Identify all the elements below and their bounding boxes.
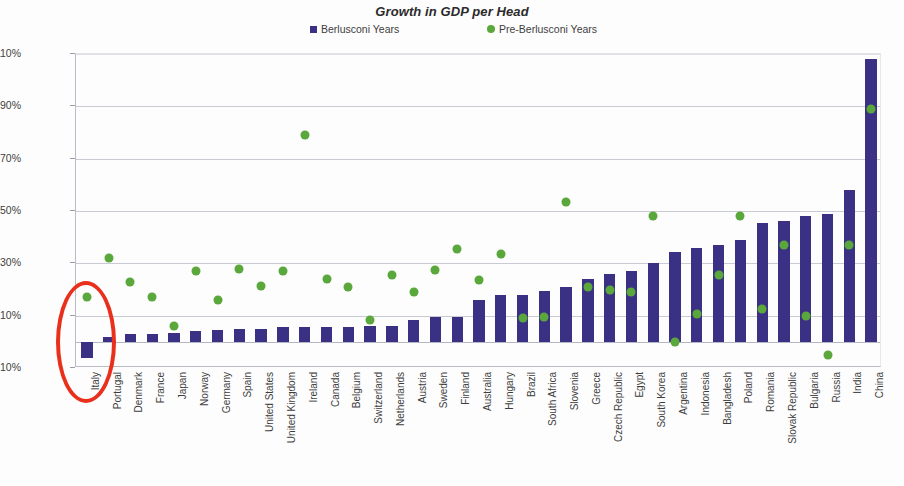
x-axis-tick-label: South Africa <box>547 372 558 426</box>
x-axis-tick-label: Brazil <box>526 372 537 397</box>
x-axis-tick-label: Poland <box>743 372 754 403</box>
bar-germany <box>212 330 223 342</box>
x-axis-tick-label: United Kingdom <box>286 372 297 443</box>
dot-egypt <box>627 288 636 297</box>
y-axis-tick-label: 50% <box>0 204 21 216</box>
y-axis-tick-label: 10% <box>0 309 21 321</box>
bar-indonesia <box>691 248 702 342</box>
bar-bangladesh <box>713 245 724 342</box>
dot-bangladesh <box>714 271 723 280</box>
dot-brazil <box>518 314 527 323</box>
dot-finland <box>453 244 462 253</box>
dot-france <box>148 293 157 302</box>
dot-romania <box>758 305 767 314</box>
bar-united-kingdom <box>277 327 288 341</box>
dot-austria <box>409 288 418 297</box>
dot-hungary <box>496 250 505 259</box>
bar-china <box>865 59 876 342</box>
x-axis-tick-label: Denmark <box>133 372 144 413</box>
bar-india <box>844 190 855 342</box>
bar-poland <box>735 240 746 342</box>
dot-united-kingdom <box>278 267 287 276</box>
chart-page: Growth in GDP per Head Berlusconi Years … <box>0 0 904 486</box>
gridline <box>76 159 880 160</box>
plot-area <box>75 53 881 367</box>
dot-denmark <box>126 277 135 286</box>
x-axis-tick-label: Switzerland <box>373 372 384 424</box>
dot-japan <box>170 322 179 331</box>
chart-legend: Berlusconi Years Pre-Berlusconi Years <box>0 23 904 37</box>
x-axis-tick-label: Germany <box>221 372 232 413</box>
bar-slovak-republic <box>778 221 789 341</box>
bar-bulgaria <box>800 216 811 342</box>
bar-belgium <box>343 327 354 341</box>
dot-spain <box>235 264 244 273</box>
dot-united-states <box>257 281 266 290</box>
dot-sweden <box>431 265 440 274</box>
bar-argentina <box>669 252 680 342</box>
x-axis-tick-label: United States <box>264 372 275 432</box>
x-axis-tick-label: China <box>874 372 885 398</box>
dot-argentina <box>671 337 680 346</box>
bar-austria <box>408 320 419 342</box>
dot-russia <box>823 350 832 359</box>
legend-label-pre-berlusconi-years: Pre-Berlusconi Years <box>499 23 597 35</box>
dot-greece <box>583 282 592 291</box>
bar-portugal <box>103 337 114 342</box>
legend-square-marker-icon <box>310 26 317 33</box>
chart-title: Growth in GDP per Head <box>0 4 904 19</box>
x-axis-tick-label: Argentina <box>678 372 689 415</box>
y-axis-tick-mark <box>70 367 75 368</box>
dot-indonesia <box>692 310 701 319</box>
y-axis-tick-label: 30% <box>0 256 21 268</box>
y-axis-tick-label: -10% <box>0 361 21 373</box>
dot-slovenia <box>562 197 571 206</box>
bar-canada <box>321 327 332 341</box>
x-axis-tick-label: Belgium <box>351 372 362 408</box>
bar-australia <box>473 300 484 342</box>
bar-netherlands <box>386 326 397 342</box>
bar-spain <box>234 329 245 342</box>
x-axis-tick-label: Ireland <box>308 372 319 403</box>
bar-hungary <box>495 295 506 342</box>
legend-item-berlusconi-years: Berlusconi Years <box>310 23 399 35</box>
bar-egypt <box>626 271 637 342</box>
dot-south-africa <box>540 312 549 321</box>
x-axis-tick-label: Portugal <box>112 372 123 409</box>
bar-ireland <box>299 327 310 341</box>
bar-romania <box>757 223 768 342</box>
x-axis-tick-label: Indonesia <box>700 372 711 415</box>
dot-poland <box>736 212 745 221</box>
x-axis-tick-label: Austria <box>417 372 428 403</box>
bar-norway <box>190 331 201 341</box>
legend-circle-marker-icon <box>487 25 495 33</box>
x-axis-tick-label: Slovak Republic <box>787 372 798 444</box>
dot-canada <box>322 275 331 284</box>
y-axis-tick-label: 70% <box>0 152 21 164</box>
x-axis-tick-label: Norway <box>199 372 210 406</box>
y-axis-tick-label: 110% <box>0 47 21 59</box>
x-axis-tick-label: Italy <box>90 372 101 390</box>
x-axis-tick-label: Bulgaria <box>809 372 820 409</box>
bar-sweden <box>430 317 441 342</box>
dot-czech-republic <box>605 285 614 294</box>
x-axis-tick-label: Australia <box>482 372 493 411</box>
x-axis-tick-label: Canada <box>330 372 341 407</box>
dot-south-korea <box>649 212 658 221</box>
legend-label-berlusconi-years: Berlusconi Years <box>321 23 399 35</box>
dot-bulgaria <box>801 311 810 320</box>
dot-netherlands <box>387 271 396 280</box>
bar-czech-republic <box>604 274 615 342</box>
gridline <box>76 106 880 107</box>
bar-slovenia <box>560 287 571 342</box>
x-axis-tick-label: South Korea <box>656 372 667 428</box>
dot-ireland <box>300 131 309 140</box>
x-axis-tick-label: Sweden <box>438 372 449 408</box>
bar-italy <box>81 342 92 358</box>
bar-finland <box>452 317 463 342</box>
bar-france <box>147 334 158 342</box>
x-axis-tick-label: Russia <box>831 372 842 403</box>
bar-south-korea <box>648 263 659 342</box>
x-axis-tick-label: Japan <box>177 372 188 399</box>
gridline <box>76 54 880 55</box>
